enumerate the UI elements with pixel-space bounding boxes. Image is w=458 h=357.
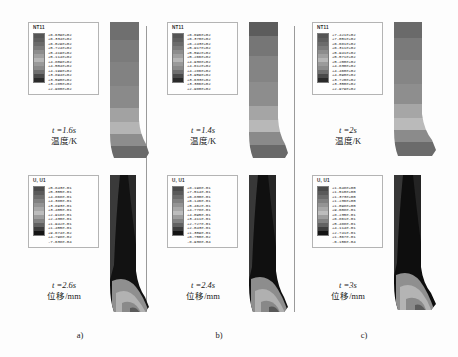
contour-plot-c-displacement bbox=[390, 175, 438, 315]
caption-a-temperature: t =1.6s 温度/K bbox=[28, 125, 100, 147]
caption-time: t =3s bbox=[312, 280, 384, 291]
contour-plot-c-temperature bbox=[390, 22, 438, 162]
legend-title: U, U1 bbox=[33, 179, 95, 184]
legend-a-temperature: NT11 bbox=[28, 22, 99, 95]
panel-a-temperature: NT11 bbox=[24, 22, 161, 162]
colorbar-c-temperature bbox=[317, 33, 329, 83]
legend-title: NT11 bbox=[33, 26, 95, 31]
contour-plot-a-temperature bbox=[106, 22, 152, 162]
legend-c-temperature: NT11 bbox=[312, 22, 383, 95]
legend-ticks: +5.843e-01 +5.355e-01 +4.868e-01 +4.380e… bbox=[48, 186, 95, 245]
colorbar-c-displacement bbox=[317, 186, 329, 236]
caption-time: t =2s bbox=[312, 125, 384, 136]
legend-tick: -8.938e-04 bbox=[187, 240, 234, 245]
legend-a-displacement: U, U1 bbox=[28, 175, 99, 248]
figure-root: NT11 bbox=[0, 0, 458, 357]
caption-c-displacement: t =3s 位移/mm bbox=[312, 280, 384, 302]
panel-column-b: NT11 bbox=[163, 0, 300, 357]
caption-time: t =1.4s bbox=[167, 125, 239, 136]
legend-ticks: +8.198e-01 +7.514e-01 +6.830e-01 +6.146e… bbox=[187, 186, 234, 245]
caption-a-displacement: t =2.6s 位移/mm bbox=[28, 280, 100, 302]
colorbar-a-temperature bbox=[33, 33, 45, 83]
panel-column-c: NT11 bbox=[308, 0, 445, 357]
panel-b-temperature: NT11 bbox=[163, 22, 300, 162]
panel-label-c: c) bbox=[344, 330, 384, 340]
panel-a-displacement: U, U1 bbox=[24, 175, 161, 320]
colorbar-swatch bbox=[34, 78, 44, 82]
legend-tick: +2.979e+02 bbox=[332, 87, 379, 92]
legend-ticks: +7.421e+02 +7.051e+02 +6.681e+02 +6.311e… bbox=[332, 33, 379, 92]
caption-time: t =2.6s bbox=[28, 280, 100, 291]
colorbar-a-displacement bbox=[33, 186, 45, 236]
legend-ticks: +6.639e+02 +6.334e+02 +6.029e+02 +5.724e… bbox=[48, 33, 95, 92]
panel-b-displacement: U, U1 bbox=[163, 175, 300, 320]
caption-quantity: 位移/mm bbox=[28, 291, 100, 302]
caption-quantity: 温度/K bbox=[28, 136, 100, 147]
legend-tick: +2.980e+02 bbox=[187, 87, 234, 92]
caption-quantity: 温度/K bbox=[167, 136, 239, 147]
panel-label-a: a) bbox=[60, 330, 100, 340]
contour-plot-b-displacement bbox=[245, 175, 291, 315]
caption-c-temperature: t =2s 温度/K bbox=[312, 125, 384, 147]
caption-time: t =2.4s bbox=[167, 280, 239, 291]
legend-tick: -7.638e-04 bbox=[48, 240, 95, 245]
panel-c-temperature: NT11 bbox=[308, 22, 445, 162]
colorbar-swatch bbox=[318, 231, 328, 235]
legend-title: NT11 bbox=[172, 26, 234, 31]
caption-time: t =1.6s bbox=[28, 125, 100, 136]
legend-ticks: +6.696e+02 +6.370e+02 +6.243e+02 +5.917e… bbox=[187, 33, 234, 92]
contour-plot-a-displacement bbox=[106, 175, 152, 315]
panel-c-displacement: U, U1 bbox=[308, 175, 445, 320]
legend-c-displacement: U, U1 bbox=[312, 175, 383, 248]
caption-b-displacement: t =2.4s 位移/mm bbox=[167, 280, 239, 302]
colorbar-swatch bbox=[34, 231, 44, 235]
legend-title: U, U1 bbox=[317, 179, 379, 184]
panel-column-a: NT11 bbox=[24, 0, 161, 357]
legend-b-displacement: U, U1 bbox=[167, 175, 238, 248]
panel-label-b: b) bbox=[199, 330, 239, 340]
legend-title: U, U1 bbox=[172, 179, 234, 184]
colorbar-swatch bbox=[173, 231, 183, 235]
legend-ticks: +1.648e+00 +1.510e+00 +1.373e+00 +1.236e… bbox=[332, 186, 379, 245]
legend-tick: +2.980e+02 bbox=[48, 87, 95, 92]
caption-quantity: 温度/K bbox=[312, 136, 384, 147]
caption-b-temperature: t =1.4s 温度/K bbox=[167, 125, 239, 147]
colorbar-b-temperature bbox=[172, 33, 184, 83]
caption-quantity: 位移/mm bbox=[167, 291, 239, 302]
legend-title: NT11 bbox=[317, 26, 379, 31]
legend-b-temperature: NT11 bbox=[167, 22, 238, 95]
colorbar-swatch bbox=[173, 78, 183, 82]
contour-plot-b-temperature bbox=[245, 22, 291, 162]
caption-quantity: 位移/mm bbox=[312, 291, 384, 302]
colorbar-b-displacement bbox=[172, 186, 184, 236]
legend-tick: -6.156e-04 bbox=[332, 240, 379, 245]
colorbar-swatch bbox=[318, 78, 328, 82]
